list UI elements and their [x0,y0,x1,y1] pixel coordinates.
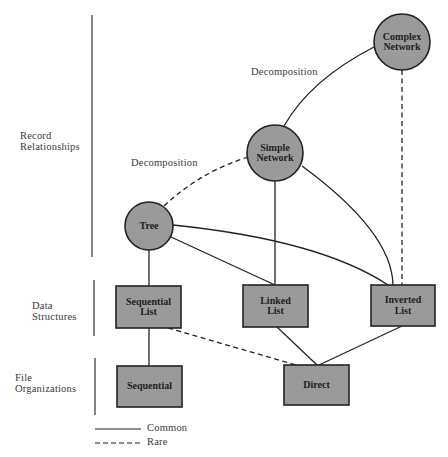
node-label-tree: Tree [125,202,173,250]
node-label-sequential: Sequential [117,366,182,407]
tier-label-line: Record [20,130,80,141]
node-label-line: Network [256,153,293,164]
tier-label-record-relationships: Record Relationships [20,130,80,152]
tier-label-file-organizations: File Organizations [15,372,76,394]
node-label-sequential-list: Sequential List [116,286,181,328]
tier-label-line: Relationships [20,141,80,152]
legend-common-label: Common [147,422,187,433]
node-label-line: List [140,307,157,318]
node-label-line: List [267,306,284,317]
node-label-line: Direct [303,380,329,391]
edge-simple-to-inverted [302,166,393,285]
tier-label-line: File [15,372,76,383]
tier-label-line: Organizations [15,383,76,394]
node-label-linked-list: Linked List [243,285,308,327]
node-label-line: Network [383,42,420,53]
edge-tree-to-linked [171,237,275,285]
edge-inverted-to-direct [319,326,402,365]
legend-rare-label: Rare [147,436,168,447]
node-label-simple-network: Simple Network [247,125,303,181]
node-label-line: List [395,306,412,317]
edge-tree-to-inverted [173,225,388,285]
edge-label-upper-decomposition: Decomposition [251,66,318,77]
tier-label-line: Structures [32,311,77,322]
node-label-line: Tree [139,221,158,232]
tier-label-line: Data [32,300,77,311]
edge-label-lower-decomposition: Decomposition [131,157,198,168]
node-label-line: Inverted [385,295,422,306]
edge-simple-to-complex [284,47,374,126]
tier-label-data-structures: Data Structures [32,300,77,322]
node-label-complex-network: Complex Network [374,14,430,70]
node-label-line: Sequential [127,381,172,392]
edge-linked-to-direct [277,327,317,365]
edge-sequential-list-to-direct [168,328,296,365]
node-label-direct: Direct [284,365,349,405]
node-label-inverted-list: Inverted List [371,285,435,326]
